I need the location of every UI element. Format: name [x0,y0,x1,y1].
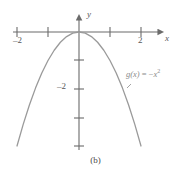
function-equals-text: = [140,69,149,79]
figure-panel: –2 2 x y –2 g(x) = −x2 (b) [0,0,191,172]
x-tick-label-2: 2 [138,36,143,45]
x-axis-label: x [165,34,169,43]
function-name-text: g(x) [126,69,140,79]
label-leader-line [127,84,131,88]
y-axis-label: y [87,10,91,19]
function-exponent-text: 2 [157,68,160,74]
figure-caption: (b) [0,155,191,165]
graph-canvas [0,0,191,172]
function-label: g(x) = −x2 [126,70,160,79]
x-tick-label-neg2: –2 [13,36,22,45]
y-tick-label-neg2: –2 [57,82,66,91]
